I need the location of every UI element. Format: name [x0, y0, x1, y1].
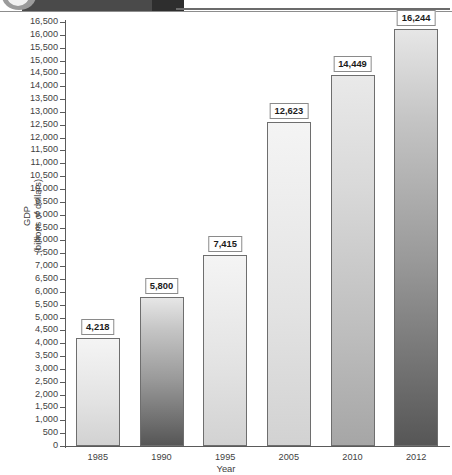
y-tick-label-wrap: 3,000: [0, 363, 58, 374]
bar-value-label: 5,800: [145, 278, 178, 294]
x-axis-line: [65, 446, 450, 447]
y-tick-label: 15,500: [6, 42, 58, 52]
y-tick-label-wrap: 500: [0, 427, 58, 438]
y-axis-title-line1: GDP: [22, 156, 33, 276]
y-tick-label: 12,500: [6, 119, 58, 129]
y-axis-title-line2: (billions of dollars): [33, 156, 44, 276]
y-tick-label-wrap: 13,500: [0, 93, 58, 104]
y-tick-label-wrap: 2,500: [0, 376, 58, 387]
y-tick-label-wrap: 16,500: [0, 16, 58, 27]
y-tick-label-wrap: 4,500: [0, 324, 58, 335]
bar: 7,415: [203, 255, 247, 446]
y-tick-label-wrap: 14,500: [0, 67, 58, 78]
y-tick-label-wrap: 13,000: [0, 106, 58, 117]
y-tick-label-wrap: 11,500: [0, 144, 58, 155]
y-tick-label: 6,000: [6, 286, 58, 296]
plot-area: 4,2185,8007,41512,62314,44916,244: [66, 22, 448, 446]
y-tick-label: 14,000: [6, 80, 58, 90]
y-tick-label: 14,500: [6, 67, 58, 77]
y-tick-label-wrap: 1,000: [0, 414, 58, 425]
bar: 4,218: [76, 338, 120, 446]
bar-value-label: 4,218: [81, 319, 114, 335]
y-tick-label: 2,000: [6, 389, 58, 399]
x-tick-label: 2010: [323, 452, 383, 462]
bar: 16,244: [394, 29, 438, 446]
y-tick: [60, 446, 66, 447]
y-tick-label-wrap: 12,500: [0, 119, 58, 130]
y-tick-label-wrap: 16,000: [0, 29, 58, 40]
x-tick-label: 2005: [259, 452, 319, 462]
y-tick-label-wrap: 2,000: [0, 389, 58, 400]
y-tick-label: 0: [6, 440, 58, 450]
y-tick-label: 5,000: [6, 312, 58, 322]
y-tick-label: 5,500: [6, 299, 58, 309]
y-tick-label-wrap: 15,000: [0, 55, 58, 66]
y-tick-label: 3,500: [6, 350, 58, 360]
y-tick-label: 1,000: [6, 414, 58, 424]
y-tick-label-wrap: 5,000: [0, 312, 58, 323]
y-tick-label-wrap: 4,000: [0, 337, 58, 348]
y-axis-title: GDP (billions of dollars): [22, 156, 44, 276]
x-tick-label: 1995: [195, 452, 255, 462]
bar-value-label: 16,244: [397, 10, 436, 26]
y-tick-label: 13,000: [6, 106, 58, 116]
y-tick-label: 16,000: [6, 29, 58, 39]
y-tick-label: 4,000: [6, 337, 58, 347]
y-tick-label-wrap: 14,000: [0, 80, 58, 91]
y-tick-label: 11,500: [6, 144, 58, 154]
bar-value-label: 14,449: [333, 56, 372, 72]
y-tick-label-wrap: 3,500: [0, 350, 58, 361]
y-tick-label: 4,500: [6, 324, 58, 334]
y-tick-label-wrap: 15,500: [0, 42, 58, 53]
bar-value-label: 12,623: [269, 103, 308, 119]
y-tick-label-wrap: 1,500: [0, 401, 58, 412]
y-tick-label: 13,500: [6, 93, 58, 103]
y-tick-label-wrap: 5,500: [0, 299, 58, 310]
bar: 14,449: [331, 75, 375, 446]
y-tick-label: 1,500: [6, 401, 58, 411]
x-axis-title: Year: [0, 463, 452, 474]
y-tick-label: 500: [6, 427, 58, 437]
y-tick-label-wrap: 6,000: [0, 286, 58, 297]
x-tick-label: 2012: [386, 452, 446, 462]
y-tick-label-wrap: 12,000: [0, 132, 58, 143]
bar-value-label: 7,415: [208, 236, 241, 252]
y-tick-label: 15,000: [6, 55, 58, 65]
bar: 12,623: [267, 122, 311, 446]
y-tick-label: 16,500: [6, 16, 58, 26]
y-tick-label: 2,500: [6, 376, 58, 386]
gdp-bar-chart: 16,50016,00015,50015,00014,50014,00013,5…: [0, 0, 452, 475]
y-tick-label: 12,000: [6, 132, 58, 142]
y-tick-label: 3,000: [6, 363, 58, 373]
x-tick-label: 1985: [68, 452, 128, 462]
y-tick-label-wrap: 0: [0, 440, 58, 451]
bar: 5,800: [140, 297, 184, 446]
x-tick-label: 1990: [132, 452, 192, 462]
